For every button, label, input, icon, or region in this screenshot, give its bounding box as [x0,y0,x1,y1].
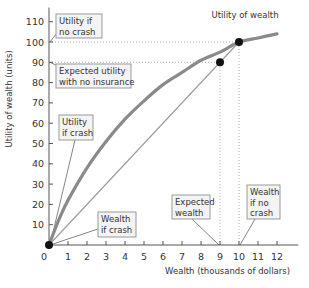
leader-line [192,219,219,245]
y-tick-label: 100 [26,37,44,48]
y-tick-label: 110 [26,16,44,27]
annotation-text: Utility if [59,16,93,26]
leader-line [50,34,56,42]
y-tick-label: 90 [32,57,44,68]
y-tick-label: 20 [32,199,44,210]
annotation-text: Expected [175,197,215,207]
x-tick-label: 1 [65,251,71,262]
annotation-boxes: Utility ifno crashExpected utilitywith n… [56,10,280,237]
x-tick-label: 0 [41,251,47,262]
x-tick-label: 12 [271,251,283,262]
x-tick-label: 4 [122,251,128,262]
annotation-expected-utility: Expected utilitywith no insurance [56,64,135,88]
annotation-text: if crash [62,128,93,138]
x-tick-label: 6 [160,251,166,262]
annotation-text: wealth [175,208,203,218]
annotation-text: if crash [101,225,132,235]
annotation-utility-no-crash: Utility ifno crash [56,14,102,38]
annotation-utility-crash: Utilityif crash [59,115,93,140]
y-tick-label: 50 [32,138,44,149]
annotation-text: crash [250,208,273,218]
x-axis-title: Wealth (thousands of dollars) [165,266,290,276]
x-tick-label: 3 [103,251,109,262]
leader-line [240,219,255,245]
annotation-text: Wealth [101,214,130,224]
x-tick-label: 9 [217,251,223,262]
x-tick-label: 8 [198,251,204,262]
annotation-text: if no [250,198,269,208]
curve-label: Utility of wealth [211,10,278,20]
y-tick-label: 80 [32,77,44,88]
y-tick-label: 40 [32,158,44,169]
x-axis-ticks: 0123456789101112 [41,241,283,262]
x-tick-label: 7 [179,251,185,262]
y-tick-label: 30 [32,179,44,190]
data-point [216,58,224,66]
y-tick-label: 10 [32,219,44,230]
x-tick-label: 2 [84,251,90,262]
x-tick-label: 5 [141,251,147,262]
y-tick-label: 60 [32,118,44,129]
x-tick-label: 11 [252,251,264,262]
annotation-text: Wealth [250,187,279,197]
annotation-text: no crash [59,27,95,37]
annotation-curve-label: Utility of wealth [211,10,278,20]
x-tick-label: 10 [233,251,245,262]
annotation-text: with no insurance [59,77,135,87]
annotation-wealth-no-crash: Wealthif nocrash [247,185,280,219]
annotation-text: Utility [62,117,87,127]
chart-canvas: 0123456789101112 10203040506070809010011… [0,0,309,288]
y-axis-title: Utility of wealth (units) [4,50,14,147]
annotation-text: Expected utility [59,66,126,76]
data-point [45,241,53,249]
y-tick-label: 70 [32,97,44,108]
data-point [235,38,243,46]
annotation-expected-wealth: Expectedwealth [172,195,215,219]
annotation-wealth-crash: Wealthif crash [98,212,136,237]
utility-of-wealth-chart: 0123456789101112 10203040506070809010011… [0,0,309,288]
